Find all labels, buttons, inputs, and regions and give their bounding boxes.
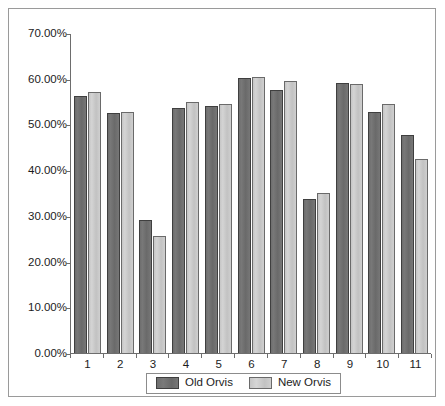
y-axis-tick-labels: 0.00%10.00%20.00%30.00%40.00%50.00%60.00…	[19, 9, 67, 396]
bar-new-orvis[interactable]	[252, 77, 265, 353]
bar-old-orvis[interactable]	[336, 83, 349, 353]
x-axis-tick-labels: 1234567891011	[71, 359, 432, 371]
bar-new-orvis[interactable]	[350, 84, 363, 353]
bar-old-orvis[interactable]	[368, 112, 381, 353]
y-axis-tick-label: 50.00%	[11, 120, 67, 132]
x-axis-tick-label: 5	[202, 359, 235, 371]
bar-new-orvis[interactable]	[219, 104, 232, 353]
x-axis-tick-label: 3	[137, 359, 170, 371]
x-axis-tick-label: 11	[399, 359, 432, 371]
bar-old-orvis[interactable]	[401, 135, 414, 354]
x-axis-line	[70, 353, 431, 354]
x-axis-tick-mark	[300, 354, 301, 358]
legend-label: New Orvis	[278, 377, 331, 389]
y-axis-tick-mark	[66, 217, 70, 218]
bar-old-orvis[interactable]	[107, 113, 120, 353]
bar-old-orvis[interactable]	[238, 78, 251, 353]
bar-group	[202, 34, 235, 353]
bar-new-orvis[interactable]	[186, 102, 199, 353]
chart-frame: 0.00%10.00%20.00%30.00%40.00%50.00%60.00…	[8, 8, 436, 397]
y-axis-tick-mark	[66, 263, 70, 264]
chart-legend: Old OrvisNew Orvis	[146, 373, 341, 394]
bar-old-orvis[interactable]	[172, 108, 185, 353]
x-axis-tick-mark	[136, 354, 137, 358]
x-axis-tick-mark	[201, 354, 202, 358]
bar-group	[169, 34, 202, 353]
legend-entry[interactable]: Old Orvis	[156, 377, 233, 389]
bar-new-orvis[interactable]	[153, 236, 166, 353]
y-axis-tick-label: 10.00%	[11, 303, 67, 315]
x-axis-tick-mark	[168, 354, 169, 358]
y-axis-tick-label: 40.00%	[11, 165, 67, 177]
x-axis-tick-mark	[103, 354, 104, 358]
bar-groups-container	[71, 34, 431, 353]
x-axis-tick-mark	[333, 354, 334, 358]
bar-old-orvis[interactable]	[270, 90, 283, 353]
bar-group	[267, 34, 300, 353]
chart-axes	[70, 34, 431, 354]
y-axis-tick-mark	[66, 171, 70, 172]
bar-new-orvis[interactable]	[121, 112, 134, 353]
legend-swatch-icon	[156, 377, 179, 389]
y-axis-tick-label: 70.00%	[11, 28, 67, 40]
bar-group	[398, 34, 431, 353]
x-axis-tick-label: 6	[235, 359, 268, 371]
bar-group	[333, 34, 366, 353]
bar-group	[235, 34, 268, 353]
x-axis-tick-label: 9	[334, 359, 367, 371]
x-axis-tick-mark	[431, 354, 432, 358]
x-axis-tick-label: 7	[268, 359, 301, 371]
x-axis-tick-mark	[398, 354, 399, 358]
bar-group	[136, 34, 169, 353]
bar-group	[71, 34, 104, 353]
y-axis-tick-label: 20.00%	[11, 257, 67, 269]
bar-new-orvis[interactable]	[88, 92, 101, 353]
bar-new-orvis[interactable]	[415, 159, 428, 353]
chart-plot-area: 0.00%10.00%20.00%30.00%40.00%50.00%60.00…	[9, 9, 435, 396]
x-axis-tick-mark	[70, 354, 71, 358]
x-axis-tick-label: 8	[301, 359, 334, 371]
bar-old-orvis[interactable]	[74, 96, 87, 353]
legend-entry[interactable]: New Orvis	[249, 377, 331, 389]
bar-new-orvis[interactable]	[317, 193, 330, 353]
x-axis-tick-mark	[234, 354, 235, 358]
bar-old-orvis[interactable]	[139, 220, 152, 353]
bar-old-orvis[interactable]	[303, 199, 316, 354]
y-axis-tick-mark	[66, 125, 70, 126]
legend-label: Old Orvis	[185, 377, 233, 389]
y-axis-tick-mark	[66, 80, 70, 81]
bar-old-orvis[interactable]	[205, 106, 218, 353]
bar-group	[300, 34, 333, 353]
bar-group	[366, 34, 399, 353]
bar-new-orvis[interactable]	[382, 104, 395, 353]
y-axis-tick-label: 60.00%	[11, 74, 67, 86]
bar-group	[104, 34, 137, 353]
x-axis-tick-label: 2	[104, 359, 137, 371]
legend-swatch-icon	[249, 377, 272, 389]
x-axis-tick-label: 1	[71, 359, 104, 371]
y-axis-tick-mark	[66, 34, 70, 35]
y-axis-tick-label: 30.00%	[11, 211, 67, 223]
bar-new-orvis[interactable]	[284, 81, 297, 353]
x-axis-tick-mark	[365, 354, 366, 358]
x-axis-tick-label: 10	[366, 359, 399, 371]
x-axis-tick-mark	[267, 354, 268, 358]
y-axis-tick-label: 0.00%	[11, 348, 67, 360]
x-axis-tick-label: 4	[169, 359, 202, 371]
y-axis-tick-mark	[66, 308, 70, 309]
